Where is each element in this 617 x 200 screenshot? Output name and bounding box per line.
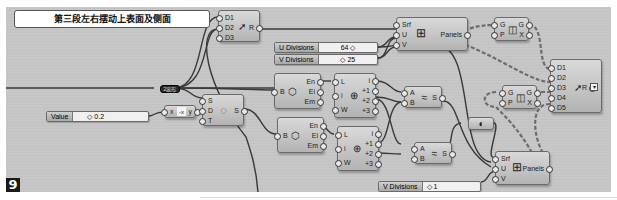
value-slider[interactable]: Value ◇ 0.2 [46,111,149,122]
port-y[interactable]: y [189,108,193,116]
v-divisions-slider-bottom[interactable]: V Divisions ◇ 1 [378,181,481,192]
port-l[interactable]: L [344,131,348,139]
port-a[interactable]: A [420,145,425,153]
port-d4[interactable]: D4 [557,94,566,102]
port-b[interactable]: B [410,99,415,107]
port-l[interactable]: L [341,78,345,86]
slider-label: V Divisions [379,182,423,191]
flip-node[interactable]: ◐ [468,117,494,130]
grid-icon: ⊞ [511,161,523,173]
port-r[interactable]: R [249,24,254,32]
port-d1[interactable]: D1 [557,64,566,72]
port-em[interactable]: Em [308,142,319,150]
port-i[interactable]: i [341,92,343,100]
port-w[interactable]: W [344,159,351,167]
port-u[interactable]: U [402,31,407,39]
v-divisions-slider-top[interactable]: V Divisions ◇ 25 [274,54,378,65]
box-icon: ⬡ [287,86,298,97]
merge-node-top[interactable]: D1 D2 D3 ➚ R [218,10,260,42]
port-s-out[interactable]: S [234,107,239,115]
output-toggle-icon[interactable]: ▾ [590,83,598,91]
brep-edges-node-2[interactable]: B ⬡ En Ei Em [277,117,324,153]
port-i[interactable]: i [344,145,346,153]
slider-value[interactable]: 64 ◇ [319,43,377,52]
port-s[interactable]: S [432,94,437,102]
port-em[interactable]: Em [305,98,316,106]
box-icon: ⬡ [290,130,301,141]
port-out-i[interactable]: i [368,77,370,85]
merge-node-right[interactable]: D1 D2 D3 D4 D5 ➚ R ▾ [550,59,602,113]
port-u[interactable]: U [501,165,506,173]
port-b[interactable]: B [280,88,285,96]
dispatch-node-top[interactable]: G P ◫ G X [494,17,529,41]
list-item-node-1[interactable]: L i W ⊕ i +1 +2 +3 [334,73,376,118]
port-b[interactable]: B [283,132,288,140]
slider-label: U Divisions [275,43,319,52]
relay-node[interactable]: 2波形 [160,85,180,93]
negative-node[interactable]: x -x y [164,105,196,118]
port-d[interactable]: D [208,107,213,115]
list-item-icon: ⊕ [352,143,362,153]
merge-icon: ➚ [237,21,247,31]
port-out-plus2[interactable]: +2 [362,97,370,105]
port-out-plus1[interactable]: +1 [362,87,370,95]
slider-label: V Divisions [275,55,319,64]
brep-edges-node-1[interactable]: B ⬡ En Ei Em [274,73,321,109]
panels-node-bottom[interactable]: Srf U V ⊞ Panels [495,151,550,185]
port-p[interactable]: P [508,99,513,107]
dispatch-icon: ◫ [507,24,517,34]
grasshopper-canvas[interactable]: 第三段左右摆动上表面及侧面 2波形 D1 D2 D3 ➚ R U Divisio… [6,7,611,192]
port-v[interactable]: V [501,175,506,183]
port-d2[interactable]: D2 [557,74,566,82]
port-out-plus3[interactable]: +3 [365,160,373,168]
ruled-surface-node-1[interactable]: A B ≈ S [404,86,442,108]
port-g[interactable]: G [508,89,513,97]
port-d1[interactable]: D1 [225,14,234,22]
ruled-surface-node-2[interactable]: A B ≈ S [414,142,452,164]
port-ei[interactable]: Ei [309,88,315,96]
port-srf[interactable]: Srf [402,21,411,29]
u-divisions-slider[interactable]: U Divisions 64 ◇ [274,42,378,53]
panels-node-top[interactable]: Srf U V ⊞ Panels [396,17,468,51]
series-icon: ◌ [218,104,229,115]
port-d3[interactable]: D3 [225,34,234,42]
dispatch-node-mid[interactable]: G P ◫ G X [502,85,537,109]
group-title[interactable]: 第三段左右摆动上表面及侧面 [14,10,210,28]
port-b[interactable]: B [420,155,425,163]
port-out-plus3[interactable]: +3 [362,107,370,115]
port-g-out[interactable]: G [527,89,532,97]
series-node[interactable]: S D T ◌ S [202,94,244,126]
flip-icon: ◐ [476,118,487,129]
port-srf[interactable]: Srf [501,155,510,163]
port-p[interactable]: P [500,31,505,39]
footer-divider [200,197,617,198]
port-w[interactable]: W [341,106,348,114]
port-out-plus2[interactable]: +2 [365,150,373,158]
port-panels[interactable]: Panels [441,31,462,39]
port-d2[interactable]: D2 [225,24,234,32]
port-d3[interactable]: D3 [557,84,566,92]
port-d5[interactable]: D5 [557,104,566,112]
port-x[interactable]: x [170,108,174,116]
slider-value[interactable]: ◇ 1 [423,182,480,191]
list-item-node-2[interactable]: L i W ⊕ i +1 +2 +3 [337,126,379,171]
negative-icon: -x [177,107,186,116]
port-a[interactable]: A [410,89,415,97]
port-panels[interactable]: Panels [523,165,544,173]
port-x[interactable]: X [519,31,524,39]
port-g[interactable]: G [500,21,505,29]
port-en[interactable]: En [309,122,318,130]
port-v[interactable]: V [402,41,407,49]
slider-value[interactable]: ◇ 25 [319,55,377,64]
port-s[interactable]: S [208,97,213,105]
port-out-i[interactable]: i [371,130,373,138]
slider-value[interactable]: ◇ 0.2 [73,112,148,121]
port-out-plus1[interactable]: +1 [365,140,373,148]
port-t[interactable]: T [208,117,212,125]
port-x[interactable]: X [527,99,532,107]
port-en[interactable]: En [306,78,315,86]
port-r[interactable]: R [582,84,587,92]
port-g-out[interactable]: G [519,21,524,29]
port-ei[interactable]: Ei [312,132,318,140]
port-s[interactable]: S [442,150,447,158]
